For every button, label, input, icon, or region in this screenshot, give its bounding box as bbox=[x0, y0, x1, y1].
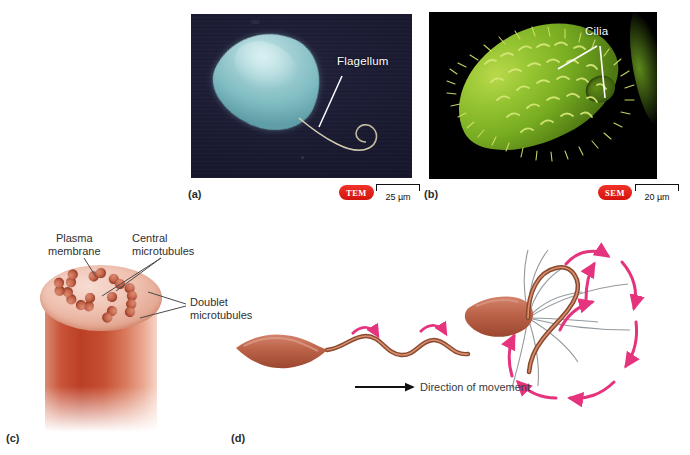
panel-a-micrograph: Flagellum bbox=[191, 14, 412, 178]
tem-badge: TEM bbox=[339, 185, 374, 200]
cilia-label: Cilia bbox=[585, 25, 608, 37]
figure-cilia-and-flagella: Flagellum (a) TEM 25 µm bbox=[0, 0, 690, 455]
central-microtubules-label-line2: microtubules bbox=[132, 245, 194, 257]
scale-bar-value: 20 µm bbox=[635, 192, 679, 202]
tem-debris-speck bbox=[301, 156, 304, 159]
flagellum-label: Flagellum bbox=[337, 55, 389, 67]
tem-debris-speck bbox=[251, 20, 260, 24]
doublet-microtubules-label-line1: Doublet bbox=[190, 296, 228, 308]
sem-badge: SEM bbox=[598, 185, 632, 200]
tem-flagellated-cell-body bbox=[200, 15, 336, 146]
scale-bar-line bbox=[376, 184, 420, 191]
direction-of-movement-label: Direction of movement bbox=[420, 381, 530, 393]
panel-a-letter: (a) bbox=[188, 188, 201, 200]
sem-neighbor-cell-edge bbox=[623, 12, 657, 128]
central-microtubule bbox=[85, 293, 95, 303]
flagellate-swimmer bbox=[236, 325, 468, 368]
panel-b-micrograph: Cilia bbox=[429, 12, 657, 179]
panel-b-scale: 20 µm bbox=[635, 184, 679, 202]
panel-d-letter: (d) bbox=[231, 432, 245, 444]
plasma-membrane-label-line1: Plasma bbox=[56, 232, 93, 244]
central-microtubule bbox=[107, 292, 117, 302]
panel-b-letter: (b) bbox=[424, 188, 438, 200]
plasma-membrane-label: Plasma membrane bbox=[48, 232, 101, 258]
plasma-membrane-cross-section bbox=[40, 265, 162, 331]
doublet-microtubules-label-line2: microtubules bbox=[190, 309, 252, 321]
microtubule bbox=[124, 306, 136, 318]
panel-c-letter: (c) bbox=[6, 432, 19, 444]
doublet-microtubules-label: Doublet microtubules bbox=[190, 296, 252, 322]
ciliate-swimmer bbox=[465, 250, 637, 398]
scale-bar-value: 25 µm bbox=[376, 192, 420, 202]
central-microtubules-label: Central microtubules bbox=[132, 232, 194, 258]
panel-a-scale: 25 µm bbox=[376, 184, 420, 202]
plasma-membrane-label-line2: membrane bbox=[48, 245, 101, 257]
scale-bar-line bbox=[635, 184, 679, 191]
central-microtubules-label-line1: Central bbox=[132, 232, 167, 244]
